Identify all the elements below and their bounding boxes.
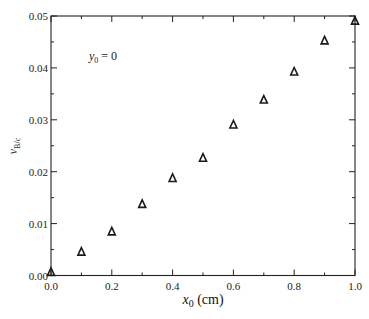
y-tick-labels: 0.000.010.020.030.040.05 <box>29 10 49 282</box>
triangle-marker <box>291 68 298 76</box>
y-tick-label: 0.00 <box>29 270 49 282</box>
triangle-marker <box>260 96 267 104</box>
y-tick-label: 0.04 <box>29 62 49 74</box>
x-axis-label: x0 (cm) <box>181 292 223 309</box>
axis-ticks <box>51 16 355 276</box>
y-tick-label: 0.01 <box>29 218 48 230</box>
triangle-marker <box>200 154 207 162</box>
triangle-marker <box>108 227 115 235</box>
triangle-marker <box>169 174 176 182</box>
x-tick-labels: 0.00.20.40.60.81.0 <box>44 280 362 292</box>
y-tick-label: 0.02 <box>29 166 48 178</box>
y-tick-label: 0.05 <box>29 10 49 22</box>
triangle-marker <box>78 248 85 256</box>
annotation-y0: y0 = 0 <box>88 49 117 65</box>
x-tick-label: 0.4 <box>166 280 180 292</box>
plot-frame <box>51 16 355 276</box>
scatter-chart: 0.00.20.40.60.81.0 0.000.010.020.030.040… <box>0 0 369 319</box>
triangle-marker <box>321 36 328 44</box>
y-tick-label: 0.03 <box>29 114 49 126</box>
triangle-marker <box>139 200 146 208</box>
x-tick-label: 1.0 <box>348 280 362 292</box>
y-axis-label: vB/c <box>6 137 22 154</box>
triangle-marker <box>230 120 237 128</box>
x-tick-label: 0.2 <box>105 280 119 292</box>
x-tick-label: 0.8 <box>287 280 301 292</box>
x-tick-label: 0.6 <box>227 280 241 292</box>
